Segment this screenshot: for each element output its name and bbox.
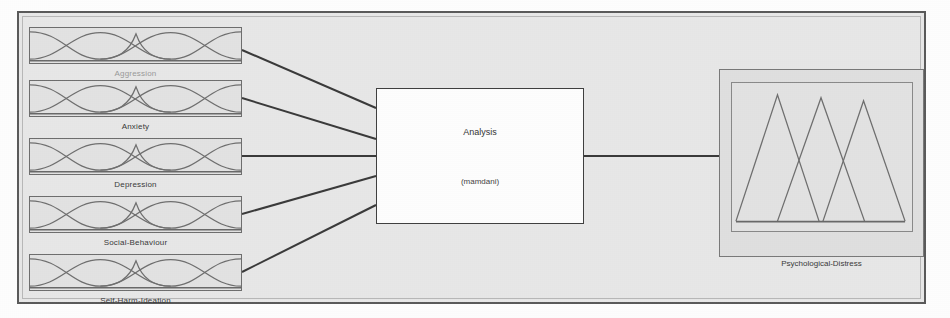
- output-membership-plot: [731, 82, 913, 232]
- output-variable-psychological-distress[interactable]: [719, 69, 924, 257]
- inference-engine-title: Analysis: [463, 127, 497, 137]
- link-input-4: [242, 176, 376, 214]
- membership-plot-self-harm-ideation: [30, 255, 241, 290]
- triangular-membership-curves: [732, 83, 912, 231]
- output-label-psychological-distress: Psychological-Distress: [719, 259, 924, 268]
- input-variable-depression[interactable]: [29, 138, 242, 175]
- input-variable-self-harm-ideation[interactable]: [29, 254, 242, 291]
- fis-diagram-page: Aggression Anxiety Depression: [0, 0, 950, 318]
- input-label-depression: Depression: [29, 180, 242, 189]
- membership-plot-social-behaviour: [30, 197, 241, 232]
- input-label-aggression: Aggression: [29, 69, 242, 78]
- link-input-2: [242, 98, 376, 139]
- membership-plot-aggression: [30, 28, 241, 63]
- input-label-social-behaviour: Social-Behaviour: [29, 238, 242, 247]
- input-variable-aggression[interactable]: [29, 27, 242, 64]
- membership-plot-depression: [30, 139, 241, 174]
- fis-window-frame: Aggression Anxiety Depression: [17, 11, 926, 304]
- input-label-self-harm-ideation: Self-Harm-Ideation: [29, 296, 242, 305]
- membership-plot-anxiety: [30, 81, 241, 116]
- inference-method-label: (mamdani): [461, 177, 499, 186]
- inference-engine-block[interactable]: Analysis (mamdani): [376, 88, 584, 224]
- input-variable-social-behaviour[interactable]: [29, 196, 242, 233]
- link-input-5: [242, 205, 376, 272]
- input-variable-anxiety[interactable]: [29, 80, 242, 117]
- input-label-anxiety: Anxiety: [29, 122, 242, 131]
- link-input-1: [242, 50, 376, 108]
